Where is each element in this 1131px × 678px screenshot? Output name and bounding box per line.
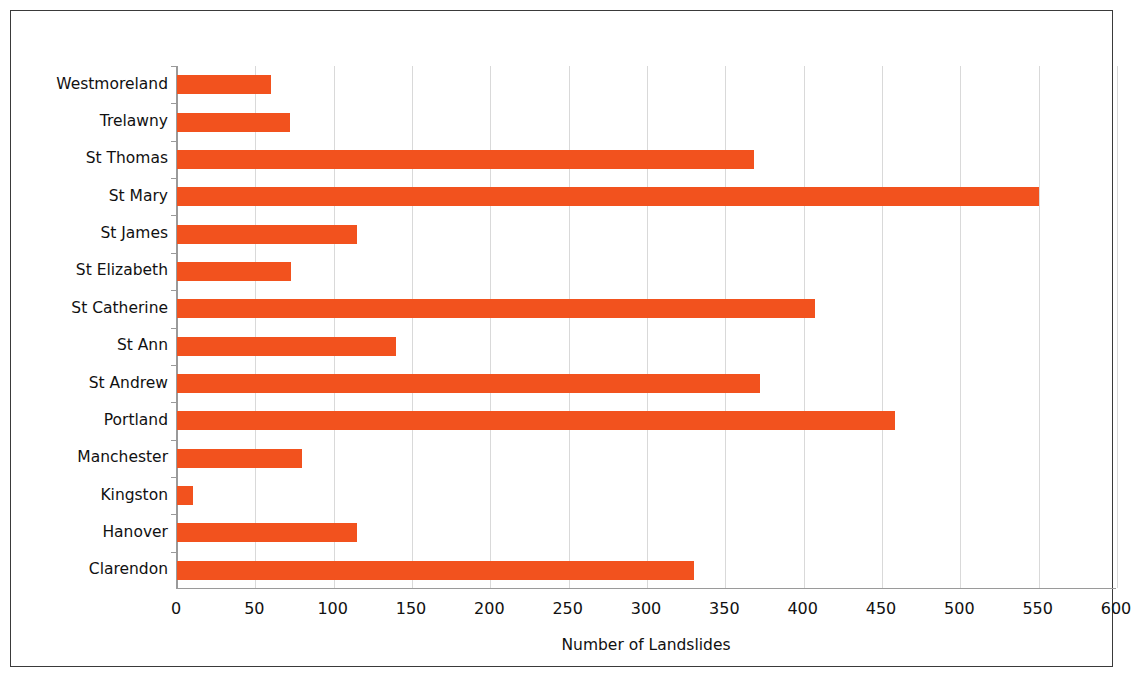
x-tick-label-250: 250 [552, 599, 583, 618]
y-label-st-catherine: St Catherine [18, 301, 168, 317]
bar-st-ann[interactable] [177, 337, 396, 356]
bar-hanover[interactable] [177, 523, 357, 542]
x-axis-tick-labels: 050100150200250300350400450500550600 [176, 589, 1116, 629]
bar-st-mary[interactable] [177, 187, 1039, 206]
x-tick-label-350: 350 [709, 599, 740, 618]
plot-area [176, 66, 1116, 589]
bar-row [177, 440, 1117, 477]
y-tickmark [171, 365, 177, 366]
bar-st-elizabeth[interactable] [177, 262, 291, 281]
bar-kingston[interactable] [177, 486, 193, 505]
bar-st-james[interactable] [177, 225, 357, 244]
bar-row [177, 253, 1117, 290]
bar-row [177, 215, 1117, 252]
bar-st-catherine[interactable] [177, 299, 815, 318]
y-label-st-james: St James [18, 226, 168, 242]
y-tickmark [171, 328, 177, 329]
y-label-westmoreland: Westmoreland [18, 77, 168, 93]
y-tickmark [171, 514, 177, 515]
bar-row [177, 178, 1117, 215]
y-tickmark [171, 440, 177, 441]
y-label-st-andrew: St Andrew [18, 376, 168, 392]
y-tickmark [171, 290, 177, 291]
bar-row [177, 290, 1117, 327]
y-tickmark [171, 253, 177, 254]
y-label-st-thomas: St Thomas [18, 151, 168, 167]
x-tick-label-450: 450 [866, 599, 897, 618]
bar-row [177, 552, 1117, 589]
y-label-clarendon: Clarendon [18, 562, 168, 578]
bar-row [177, 141, 1117, 178]
bar-row [177, 103, 1117, 140]
x-axis-title: Number of Landslides [176, 636, 1116, 654]
y-tickmark [171, 215, 177, 216]
x-tick-label-400: 400 [787, 599, 818, 618]
bar-row [177, 402, 1117, 439]
bar-st-thomas[interactable] [177, 150, 754, 169]
x-tick-label-200: 200 [474, 599, 505, 618]
y-tickmark [171, 178, 177, 179]
y-label-hanover: Hanover [18, 525, 168, 541]
bar-row [177, 514, 1117, 551]
bar-portland[interactable] [177, 411, 895, 430]
bar-row [177, 328, 1117, 365]
y-tickmark [171, 66, 177, 67]
gridline-x-600 [1117, 66, 1118, 588]
bar-st-andrew[interactable] [177, 374, 760, 393]
bar-row [177, 477, 1117, 514]
y-tickmark [171, 141, 177, 142]
y-label-portland: Portland [18, 413, 168, 429]
bar-trelawny[interactable] [177, 113, 290, 132]
bar-westmoreland[interactable] [177, 75, 271, 94]
bar-row [177, 365, 1117, 402]
bar-manchester[interactable] [177, 449, 302, 468]
x-tick-label-0: 0 [171, 599, 181, 618]
x-tick-label-500: 500 [944, 599, 975, 618]
x-tick-label-300: 300 [631, 599, 662, 618]
bar-clarendon[interactable] [177, 561, 694, 580]
y-label-kingston: Kingston [18, 488, 168, 504]
x-tick-label-150: 150 [396, 599, 427, 618]
y-tickmark [171, 402, 177, 403]
x-tick-label-100: 100 [317, 599, 348, 618]
y-tickmark [171, 552, 177, 553]
y-label-st-ann: St Ann [18, 338, 168, 354]
chart-frame: WestmorelandTrelawnySt ThomasSt MarySt J… [10, 10, 1113, 667]
y-label-trelawny: Trelawny [18, 114, 168, 130]
bar-row [177, 66, 1117, 103]
y-label-st-elizabeth: St Elizabeth [18, 263, 168, 279]
x-tick-label-550: 550 [1022, 599, 1053, 618]
y-label-manchester: Manchester [18, 450, 168, 466]
x-tick-label-50: 50 [244, 599, 264, 618]
y-label-st-mary: St Mary [18, 189, 168, 205]
y-tickmark [171, 477, 177, 478]
y-axis-category-labels: WestmorelandTrelawnySt ThomasSt MarySt J… [11, 66, 168, 589]
x-tick-label-600: 600 [1101, 599, 1131, 618]
y-tickmark [171, 103, 177, 104]
